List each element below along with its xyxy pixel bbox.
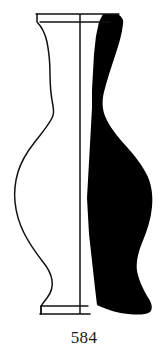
figure-plate: 584 <box>0 0 168 355</box>
figure-number-caption: 584 <box>0 327 168 349</box>
vessel-exterior-profile <box>15 14 54 314</box>
vessel-profile-drawing <box>0 0 168 330</box>
vessel-section-fill <box>87 14 152 315</box>
